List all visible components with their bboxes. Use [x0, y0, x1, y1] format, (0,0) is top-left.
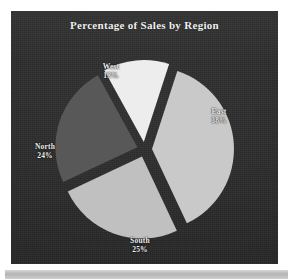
page-root: Percentage of Sales by Region West 13% E… [0, 0, 295, 279]
pie-label-south-name: South [117, 236, 163, 245]
pie-label-east-name: East [196, 107, 242, 116]
bottom-gray-band [0, 270, 295, 279]
chart-panel: Percentage of Sales by Region West 13% E… [11, 11, 278, 264]
chart-title: Percentage of Sales by Region [11, 19, 278, 31]
pie-label-west: West 13% [88, 62, 134, 80]
pie-label-south-value: 25% [117, 245, 163, 254]
pie-label-west-name: West [88, 62, 134, 71]
bottom-band-right-edge [288, 270, 295, 279]
pie-label-east: East 38% [196, 107, 242, 125]
pie-label-north-value: 24% [22, 151, 68, 160]
pie-label-west-value: 13% [88, 71, 134, 80]
pie-label-south: South 25% [117, 236, 163, 254]
pie-label-north: North 24% [22, 142, 68, 160]
pie-slice-east[interactable] [152, 71, 234, 223]
bottom-band-left-edge [0, 270, 5, 279]
pie-chart [11, 11, 278, 264]
pie-label-east-value: 38% [196, 116, 242, 125]
pie-label-north-name: North [22, 142, 68, 151]
